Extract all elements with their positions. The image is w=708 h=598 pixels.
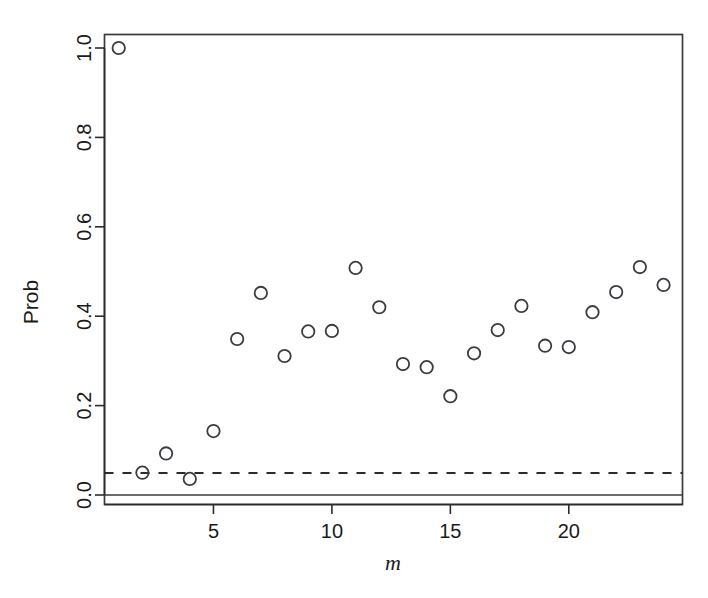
data-point bbox=[184, 473, 196, 485]
data-point bbox=[302, 325, 314, 337]
x-tick-label-group: 5101520 bbox=[208, 520, 580, 542]
x-tick-label-15: 15 bbox=[439, 520, 461, 542]
y-tick-label-0.8: 0.8 bbox=[73, 123, 95, 151]
y-tick-label-0.0: 0.0 bbox=[73, 481, 95, 509]
data-point bbox=[255, 287, 267, 299]
data-point bbox=[539, 340, 551, 352]
data-point bbox=[278, 350, 290, 362]
x-tick-label-10: 10 bbox=[321, 520, 343, 542]
data-point bbox=[468, 347, 480, 359]
scatter-plot-figure: 0.00.20.40.60.81.0 5101520 Prob m bbox=[0, 0, 708, 598]
data-point bbox=[231, 333, 243, 345]
y-axis-title: Prob bbox=[19, 280, 42, 324]
x-tick-group bbox=[213, 505, 568, 515]
data-point bbox=[113, 42, 125, 54]
y-tick-label-0.6: 0.6 bbox=[73, 213, 95, 241]
y-tick-group bbox=[95, 48, 105, 495]
data-point bbox=[397, 358, 409, 370]
data-point bbox=[634, 261, 646, 273]
data-point bbox=[373, 301, 385, 313]
plot-frame bbox=[105, 35, 683, 505]
x-tick-label-20: 20 bbox=[558, 520, 580, 542]
y-tick-label-0.4: 0.4 bbox=[73, 302, 95, 330]
y-tick-label-1.0: 1.0 bbox=[73, 34, 95, 62]
y-axis: 0.00.20.40.60.81.0 bbox=[73, 34, 104, 509]
x-axis-title: m bbox=[385, 550, 401, 575]
x-axis: 5101520 bbox=[105, 505, 683, 543]
data-point bbox=[444, 390, 456, 402]
data-point bbox=[207, 425, 219, 437]
data-point bbox=[326, 325, 338, 337]
data-point bbox=[349, 262, 361, 274]
data-point bbox=[610, 286, 622, 298]
data-point bbox=[515, 300, 527, 312]
plot-canvas: 0.00.20.40.60.81.0 5101520 Prob m bbox=[0, 0, 708, 598]
data-point bbox=[563, 341, 575, 353]
data-point-group bbox=[113, 42, 670, 485]
y-tick-label-group: 0.00.20.40.60.81.0 bbox=[73, 34, 95, 509]
data-point bbox=[160, 447, 172, 459]
x-tick-label-5: 5 bbox=[208, 520, 219, 542]
y-tick-label-0.2: 0.2 bbox=[73, 392, 95, 420]
data-point bbox=[657, 279, 669, 291]
data-point bbox=[586, 306, 598, 318]
data-point bbox=[492, 324, 504, 336]
data-point bbox=[420, 361, 432, 373]
